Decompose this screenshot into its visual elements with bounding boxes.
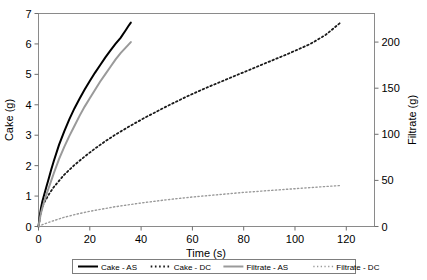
y-right-tick-label: 50 [382,174,394,186]
x-tick-label: 40 [135,233,147,245]
y-right-tick-label: 200 [382,36,400,48]
legend-label: Filtrate - DC [336,263,379,272]
cake-filtrate-line-chart: 020406080100120 01234567 050100150200 Ti… [0,0,427,280]
y-left-tick-label: 3 [25,129,31,141]
x-tick-label: 0 [35,233,41,245]
y-right-tick-label: 0 [382,221,388,233]
y-left-tick-label: 0 [25,221,31,233]
y-left-tick-label: 5 [25,68,31,80]
legend-label: Filtrate - AS [246,263,288,272]
chart-figure: 020406080100120 01234567 050100150200 Ti… [0,0,427,280]
y-right-tick-label: 100 [382,128,400,140]
y-left-tick-label: 7 [25,8,31,20]
x-tick-label: 80 [238,233,250,245]
legend-label: Cake - DC [174,263,212,272]
y-left-tick-label: 2 [25,160,31,172]
x-tick-label: 120 [337,233,355,245]
y-axis-left-title: Cake (g) [3,99,15,141]
chart-background [0,0,427,280]
y-left-tick-label: 4 [25,99,31,111]
y-axis-right-title: Filtrate (g) [406,95,418,145]
y-left-tick-label: 1 [25,190,31,202]
y-right-tick-label: 150 [382,82,400,94]
x-axis-title: Time (s) [186,247,226,259]
x-tick-label: 60 [186,233,198,245]
chart-legend: Cake - ASCake - DCFiltrate - ASFiltrate … [73,260,380,274]
x-tick-label: 20 [84,233,96,245]
x-tick-label: 100 [286,233,304,245]
legend-label: Cake - AS [101,263,137,272]
y-left-tick-label: 6 [25,38,31,50]
